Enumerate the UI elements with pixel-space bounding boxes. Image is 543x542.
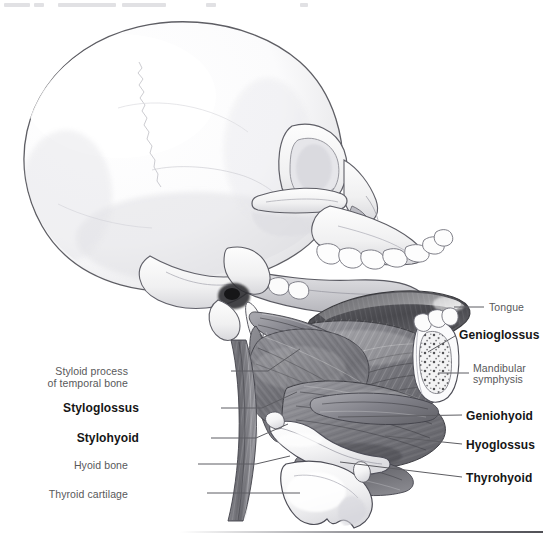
thyroid-cartilage <box>281 461 372 528</box>
label-mandibular-symphysis-line2: symphysis <box>473 373 523 385</box>
label-thyroid-cartilage: Thyroid cartilage <box>0 488 128 500</box>
label-styloid-process-line2: of temporal bone <box>0 377 128 389</box>
label-hyoglossus: Hyoglossus <box>466 438 535 452</box>
label-tongue: Tongue <box>489 301 524 313</box>
label-thyrohyoid: Thyrohyoid <box>466 471 532 485</box>
illustration-page: Tongue Genioglossus Mandibular symphysis… <box>0 0 543 542</box>
mandibular-symphysis <box>413 308 459 402</box>
label-genioglossus: Genioglossus <box>459 328 540 342</box>
label-stylohyoid: Stylohyoid <box>0 431 139 445</box>
bottom-divider-rule <box>180 531 543 533</box>
label-geniohyoid: Geniohyoid <box>466 409 533 423</box>
label-styloglossus: Styloglossus <box>0 401 139 415</box>
label-hyoid-bone: Hyoid bone <box>0 459 128 471</box>
label-styloid-process-line1: Styloid process <box>0 365 128 377</box>
